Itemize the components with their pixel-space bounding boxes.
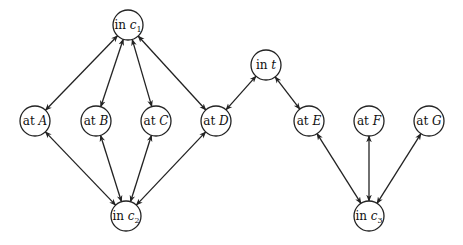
edge-t-D [226, 76, 256, 110]
node-label-variable: B [98, 114, 108, 128]
node-label-prefix: at [357, 114, 373, 128]
node-label-prefix: at [23, 114, 39, 128]
edge-c3-E [317, 134, 361, 204]
node-label-variable: C [159, 114, 168, 128]
node-label: at A [23, 114, 48, 128]
node-label-prefix: at [203, 114, 219, 128]
node-t: in t [251, 50, 281, 80]
node-label: at F [357, 114, 382, 128]
edge-t-E [275, 77, 300, 109]
node-label-prefix: in [256, 58, 271, 72]
node-label-variable: A [38, 114, 48, 128]
node-label-prefix: in [114, 18, 129, 32]
node-label-prefix: at [84, 114, 100, 128]
node-label-variable: t [271, 58, 276, 72]
edge-c2-B [101, 135, 122, 201]
node-D: at D [201, 106, 231, 136]
node-G: at G [414, 106, 444, 136]
edge-c1-C [132, 39, 152, 106]
node-label-variable: F [372, 114, 382, 128]
node-F: at F [354, 106, 384, 136]
node-label-prefix: in [355, 209, 370, 223]
node-label: at D [203, 114, 229, 128]
node-c3: in c3 [354, 201, 384, 231]
node-label-prefix: at [144, 114, 160, 128]
node-label-subscript: 3 [378, 216, 383, 225]
node-label: at G [416, 114, 442, 128]
node-B: at B [81, 106, 111, 136]
node-label-prefix: at [416, 114, 432, 128]
edge-c3-G [377, 134, 421, 204]
edge-c2-D [136, 132, 205, 205]
node-label: in t [256, 58, 276, 72]
edge-c2-A [45, 132, 115, 205]
node-label-variable: E [312, 114, 322, 128]
node-label-variable: G [432, 114, 442, 128]
node-label: at E [297, 114, 322, 128]
node-label-subscript: 2 [135, 216, 140, 225]
node-label: at C [144, 114, 169, 128]
node-label-variable: D [218, 114, 229, 128]
node-c1: in c1 [113, 10, 143, 40]
edge-c1-D [138, 36, 206, 110]
node-label-prefix: in [112, 209, 127, 223]
state-graph-diagram: in c1at Aat Bat Cat Din c2in tat Eat Fat… [0, 0, 463, 245]
node-label: at B [84, 114, 109, 128]
node-E: at E [294, 106, 324, 136]
node-c2: in c2 [111, 201, 141, 231]
node-A: at A [20, 106, 50, 136]
node-label-subscript: 1 [137, 25, 142, 34]
node-C: at C [141, 106, 171, 136]
node-label-prefix: at [297, 114, 313, 128]
edge-c1-A [45, 36, 117, 110]
